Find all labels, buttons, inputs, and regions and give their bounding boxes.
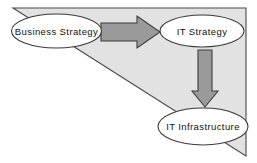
node-it-strategy[interactable]: IT Strategy [160, 15, 244, 47]
node-business-strategy[interactable]: Business Strategy [12, 14, 102, 48]
node-it-strategy-label: IT Strategy [177, 26, 228, 37]
alignment-diagram: Business Strategy to IT Strategy to IT I… [0, 0, 257, 163]
node-it-infrastructure-label: IT Infrastructure [166, 121, 240, 132]
node-business-strategy-label: Business Strategy [15, 26, 98, 37]
node-it-infrastructure[interactable]: IT Infrastructure [158, 108, 248, 145]
diagram-canvas: Business Strategy to IT Strategy to IT I… [0, 0, 257, 163]
